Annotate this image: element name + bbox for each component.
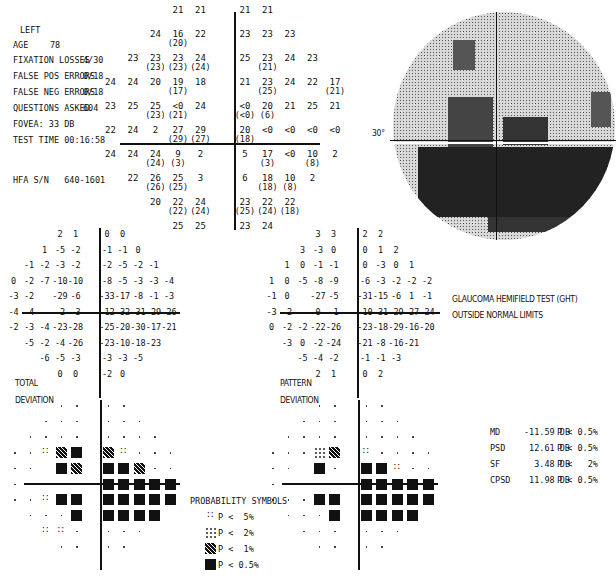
threshold-repeat-value: (24)	[257, 207, 279, 216]
threshold-repeat-value: (23)	[145, 63, 167, 72]
probability-symbol-p05	[361, 510, 372, 521]
probability-symbol-dot	[40, 510, 51, 521]
age-label: AGE	[13, 40, 28, 50]
legend-text: P < 1%	[218, 544, 254, 554]
deviation-value: -2	[323, 354, 345, 363]
threshold-repeat-value: (18)	[279, 207, 301, 216]
probability-symbol-dot	[118, 526, 129, 537]
threshold-cell: 25	[190, 222, 212, 231]
age-value: 78	[50, 40, 60, 50]
threshold-cell: 24(24)	[190, 54, 212, 72]
threshold-repeat-value: (25)	[167, 183, 189, 192]
threshold-value: 6	[242, 173, 247, 183]
threshold-cell: 23	[234, 30, 256, 39]
threshold-value: 20	[150, 77, 161, 87]
threshold-cell: 21	[234, 6, 256, 15]
probability-symbol-p05	[329, 510, 340, 521]
threshold-cell: 26(26)	[145, 174, 167, 192]
threshold-value: 25	[195, 221, 206, 231]
probability-symbol-p1	[71, 463, 82, 474]
threshold-cell: 3	[190, 174, 212, 183]
index-name: SF	[490, 459, 500, 469]
probability-symbol-dot	[329, 463, 340, 474]
threshold-h-axis	[120, 143, 320, 145]
threshold-value: 2	[310, 173, 315, 183]
probability-symbol-dot	[314, 510, 325, 521]
threshold-repeat-value: (20)	[167, 39, 189, 48]
probability-symbol-dot	[56, 541, 67, 552]
probability-symbol-dot	[71, 541, 82, 552]
threshold-value: 23	[285, 29, 296, 39]
threshold-value: <0	[285, 125, 296, 135]
false-neg-value: 0/18	[83, 87, 103, 97]
probability-symbol-dot	[134, 526, 145, 537]
deviation-value: -2	[65, 246, 87, 255]
deviation-value: -9	[323, 277, 345, 286]
threshold-cell: 24	[100, 150, 122, 159]
probability-symbol-dot	[267, 447, 278, 458]
probability-symbol-dot	[103, 416, 114, 427]
probability-symbol-dot	[298, 431, 309, 442]
threshold-value: 24	[285, 77, 296, 87]
threshold-value: 23	[240, 221, 251, 231]
index-probability: P < 0.5%	[557, 443, 598, 453]
threshold-value: 24	[105, 77, 116, 87]
probability-symbol-dot	[376, 400, 387, 411]
threshold-cell: 23(23)	[145, 54, 167, 72]
threshold-cell: 22	[122, 174, 144, 183]
threshold-repeat-value: (21)	[257, 63, 279, 72]
legend-symbol-p05	[205, 559, 216, 570]
probability-symbol-dot	[267, 479, 278, 490]
probability-symbol-p05	[361, 494, 372, 505]
probability-symbol-p05	[376, 510, 387, 521]
threshold-value: 24	[105, 149, 116, 159]
index-name: PSD	[490, 443, 505, 453]
index-probability: P < 2%	[557, 459, 598, 469]
threshold-cell: 2	[190, 150, 212, 159]
threshold-value: 23	[262, 29, 273, 39]
threshold-cell: 23(23)	[167, 54, 189, 72]
probability-symbol-dot	[361, 416, 372, 427]
probability-symbol-p05	[423, 494, 434, 505]
probability-symbol-dot	[149, 447, 160, 458]
deviation-value: -28	[65, 323, 87, 332]
greyscale-h-axis	[390, 142, 616, 144]
threshold-cell: 27(29)	[167, 126, 189, 144]
probability-symbol-p5	[392, 463, 403, 474]
probability-symbol-p05	[407, 510, 418, 521]
probability-symbol-p05	[392, 510, 403, 521]
probability-symbol-dot	[56, 431, 67, 442]
threshold-repeat-value: (21)	[324, 87, 346, 96]
probability-symbol-dot	[376, 447, 387, 458]
threshold-repeat-value: (24)	[190, 207, 212, 216]
probability-symbol-p05	[314, 494, 325, 505]
threshold-value: 20	[150, 197, 161, 207]
threshold-cell: 2	[302, 174, 324, 183]
probability-symbol-dot	[361, 431, 372, 442]
threshold-cell: 22(24)	[257, 198, 279, 216]
threshold-cell: 21	[167, 6, 189, 15]
probability-symbol-p05	[314, 463, 325, 474]
probability-symbol-p05	[71, 510, 82, 521]
threshold-repeat-value: (3)	[257, 159, 279, 168]
threshold-cell: 19(17)	[167, 78, 189, 96]
threshold-cell: 21	[190, 6, 212, 15]
deviation-value: -1	[323, 261, 345, 270]
probability-symbol-dot	[134, 447, 145, 458]
ght-title: GLAUCOMA HEMIFIELD TEST (GHT)	[452, 294, 577, 304]
probability-symbol-dot	[56, 510, 67, 521]
probability-symbol-dot	[361, 400, 372, 411]
probability-symbol-p05	[103, 510, 114, 521]
greyscale-v-axis	[496, 12, 497, 240]
deviation-value: -6	[65, 292, 87, 301]
probability-symbol-dot	[376, 541, 387, 552]
questions-label: QUESTIONS ASKED	[13, 103, 90, 113]
threshold-cell: 18	[190, 78, 212, 87]
probability-symbol-dot	[329, 541, 340, 552]
threshold-value: 22	[105, 125, 116, 135]
threshold-cell: 5	[234, 150, 256, 159]
probability-symbol-dot	[314, 541, 325, 552]
greyscale-scale-label: 30°	[372, 128, 385, 138]
threshold-value: 25	[128, 101, 139, 111]
eye-label: LEFT	[20, 25, 40, 35]
